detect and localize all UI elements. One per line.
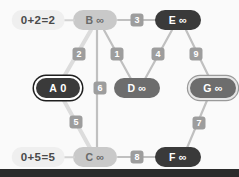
edge-weight-b-e: 3 (131, 14, 144, 27)
bottom-strip (0, 169, 239, 177)
edge-weight-a-c: 5 (70, 116, 83, 129)
node-label: F (169, 151, 176, 163)
edge-weight-e-d: 4 (152, 48, 165, 61)
graph-canvas: A0B∞C∞D∞E∞F∞G∞ 251364978 0+2=20+5=5 (0, 0, 239, 177)
node-distance: ∞ (179, 14, 187, 26)
node-distance: ∞ (138, 82, 146, 94)
edge-weight-b-d: 1 (111, 48, 124, 61)
edge-weight-c-f: 8 (131, 151, 144, 164)
node-distance: ∞ (96, 151, 104, 163)
node-label: D (127, 82, 135, 94)
callout-relax-b: 0+2=2 (12, 10, 65, 30)
edge-weight-g-f: 7 (193, 117, 206, 130)
edge-weight-b-c: 6 (94, 82, 107, 95)
graph-node-e[interactable]: E∞ (155, 10, 201, 30)
graph-node-a[interactable]: A0 (36, 78, 80, 98)
node-distance: ∞ (96, 14, 104, 26)
node-distance: ∞ (215, 82, 223, 94)
edge-weight-a-b: 2 (73, 48, 86, 61)
node-label: B (85, 14, 93, 26)
node-label: E (169, 14, 176, 26)
graph-node-f[interactable]: F∞ (155, 147, 201, 167)
callout-relax-c: 0+5=5 (12, 147, 65, 167)
graph-node-c[interactable]: C∞ (73, 147, 117, 167)
node-distance: ∞ (179, 151, 187, 163)
edge-weight-e-g: 9 (190, 48, 203, 61)
node-label: C (85, 151, 93, 163)
graph-node-g[interactable]: G∞ (190, 78, 236, 98)
node-label: G (203, 82, 211, 94)
graph-node-b[interactable]: B∞ (73, 10, 117, 30)
node-distance: 0 (60, 82, 66, 94)
graph-node-d[interactable]: D∞ (114, 78, 160, 98)
node-label: A (49, 82, 57, 94)
